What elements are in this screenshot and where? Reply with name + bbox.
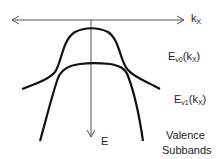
ev0-label: Ev0(kX) <box>168 51 200 63</box>
caption-line-1: Valence <box>166 130 205 141</box>
caption-line-2: Subbands <box>162 145 212 156</box>
energy-axis <box>87 20 95 137</box>
kx-axis-label: kX <box>191 13 201 25</box>
ev1-label: Ev1(kX) <box>174 94 206 106</box>
energy-axis-label: E <box>101 136 108 147</box>
kx-axis <box>12 16 184 24</box>
